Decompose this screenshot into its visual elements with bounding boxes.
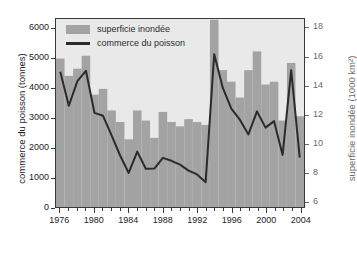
legend-label-superficie-inondee: superficie inondée	[97, 24, 170, 34]
y-axis-right-tick-mark	[305, 202, 309, 203]
legend-label-commerce-du-poisson: commerce du poisson	[97, 38, 185, 48]
y-axis-right-tick-label: 6	[313, 196, 345, 206]
y-axis-right-tick-label: 8	[313, 167, 345, 177]
x-axis-minor-tick-mark	[249, 208, 250, 211]
x-axis-minor-tick-mark	[77, 208, 78, 211]
y-axis-right-tick-mark	[305, 57, 309, 58]
x-axis-minor-tick-mark	[68, 208, 69, 211]
legend-bar-swatch-icon	[66, 25, 90, 34]
y-axis-left-tick-mark	[51, 208, 55, 209]
y-axis-right-tick-label: 14	[313, 80, 345, 90]
x-axis-major-tick-mark	[163, 208, 164, 213]
y-axis-right-label: superficie inondée (1000 km²)	[346, 24, 357, 214]
x-axis-major-tick-mark	[301, 208, 302, 213]
x-axis-minor-tick-mark	[214, 208, 215, 211]
chart-legend: superficie inondée commerce du poisson	[66, 23, 185, 51]
x-axis-minor-tick-mark	[223, 208, 224, 211]
x-axis-minor-tick-mark	[206, 208, 207, 211]
y-axis-right-tick-mark	[305, 144, 309, 145]
y-axis-left-tick-label: 2000	[17, 142, 49, 152]
x-axis-major-tick-mark	[128, 208, 129, 213]
line-path	[60, 54, 299, 182]
x-axis-minor-tick-mark	[189, 208, 190, 211]
y-axis-right-tick-label: 12	[313, 109, 345, 119]
y-axis-right-tick-label: 18	[313, 21, 345, 31]
y-axis-left-tick-label: 0	[17, 202, 49, 212]
x-axis-minor-tick-mark	[120, 208, 121, 211]
x-axis-major-tick-mark	[94, 208, 95, 213]
x-axis-major-tick-mark	[266, 208, 267, 213]
x-axis-minor-tick-mark	[180, 208, 181, 211]
legend-item-commerce-du-poisson: commerce du poisson	[66, 37, 185, 49]
x-axis-minor-tick-mark	[102, 208, 103, 211]
x-axis-minor-tick-mark	[292, 208, 293, 211]
plot-area: superficie inondée commerce du poisson	[55, 18, 305, 208]
legend-item-superficie-inondee: superficie inondée	[66, 23, 185, 35]
y-axis-right-tick-label: 16	[313, 51, 345, 61]
x-axis-minor-tick-mark	[275, 208, 276, 211]
x-axis-major-tick-mark	[59, 208, 60, 213]
x-axis-minor-tick-mark	[85, 208, 86, 211]
x-axis-minor-tick-mark	[137, 208, 138, 211]
y-axis-right-tick-mark	[305, 86, 309, 87]
legend-line-swatch-icon	[66, 42, 90, 45]
x-axis-minor-tick-mark	[146, 208, 147, 211]
y-axis-left-tick-label: 4000	[17, 82, 49, 92]
x-axis-minor-tick-mark	[154, 208, 155, 211]
y-axis-right-tick-label: 10	[313, 138, 345, 148]
x-axis-minor-tick-mark	[171, 208, 172, 211]
y-axis-left-tick-label: 5000	[17, 52, 49, 62]
x-axis-major-tick-mark	[232, 208, 233, 213]
y-axis-right-tick-mark	[305, 27, 309, 28]
x-axis-major-tick-mark	[197, 208, 198, 213]
y-axis-right-tick-mark	[305, 173, 309, 174]
y-axis-left-tick-label: 3000	[17, 112, 49, 122]
y-axis-right-tick-mark	[305, 115, 309, 116]
x-axis-minor-tick-mark	[258, 208, 259, 211]
x-axis-tick-label: 2004	[281, 215, 321, 225]
x-axis-minor-tick-mark	[283, 208, 284, 211]
x-axis-minor-tick-mark	[111, 208, 112, 211]
y-axis-left-tick-label: 1000	[17, 172, 49, 182]
y-axis-left-tick-label: 6000	[17, 22, 49, 32]
x-axis-minor-tick-mark	[240, 208, 241, 211]
